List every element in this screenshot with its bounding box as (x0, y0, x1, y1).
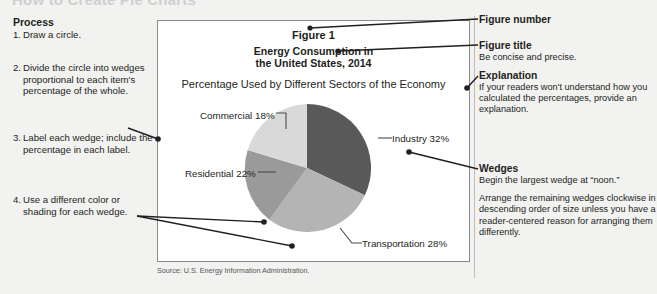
figure-source: Source: U.S. Energy Information Administ… (157, 266, 310, 275)
annotation-heading: Figure title (479, 40, 657, 52)
annotation-body: Be concise and precise. (479, 52, 657, 63)
pie-label-transportation: Transportation 28% (362, 238, 447, 249)
pie-label-residential: Residential 22% (185, 168, 256, 179)
step-number: 2. (13, 62, 23, 97)
annotation-figure-title: Figure title Be concise and precise. (479, 40, 657, 63)
annotation-figure-number: Figure number (479, 14, 657, 26)
process-column: Process 1. Draw a circle. 2. Divide the … (13, 16, 153, 30)
annotation-body: Arrange the remaining wedges clockwise i… (479, 193, 657, 238)
figure-number: Figure 1 (158, 29, 469, 41)
figure-title-line-2: the United States, 2014 (158, 57, 469, 69)
process-step-2: 2. Divide the circle into wedges proport… (13, 62, 153, 97)
step-number: 4. (13, 194, 23, 217)
process-step-3: 3. Label each wedge; include the percent… (13, 132, 153, 155)
step-number: 3. (13, 132, 23, 155)
figure-subtitle: Percentage Used by Different Sectors of … (158, 78, 469, 90)
pie-label-commercial: Commercial 18% (200, 110, 275, 121)
figure-title: Energy Consumption in the United States,… (158, 45, 469, 70)
annotation-heading: Wedges (479, 163, 657, 175)
annotation-body: If your readers won't understand how you… (479, 82, 657, 116)
step-text: Label each wedge; include the percentage… (23, 132, 153, 155)
process-title: Process (13, 16, 153, 29)
pie-chart (243, 104, 371, 232)
annotation-wedges: Wedges Begin the largest wedge at “noon.… (479, 163, 657, 238)
annotation-explanation: Explanation If your readers won't unders… (479, 70, 657, 116)
annotation-heading: Figure number (479, 14, 657, 26)
page-heading: How to Create Pie Charts (12, 0, 196, 8)
pie-label-industry: Industry 32% (392, 133, 449, 144)
annotation-body: Begin the largest wedge at “noon.” (479, 175, 657, 186)
figure-title-line-1: Energy Consumption in (158, 45, 469, 57)
process-step-4: 4. Use a different color or shading for … (13, 194, 153, 217)
step-text: Draw a circle. (23, 29, 153, 41)
annotation-heading: Explanation (479, 70, 657, 82)
process-step-1: 1. Draw a circle. (13, 29, 153, 41)
step-number: 1. (13, 29, 23, 41)
step-text: Use a different color or shading for eac… (23, 194, 153, 217)
vertical-divider-rule (474, 16, 475, 278)
pie-chart-svg (243, 104, 371, 232)
step-text: Divide the circle into wedges proportion… (23, 62, 153, 97)
